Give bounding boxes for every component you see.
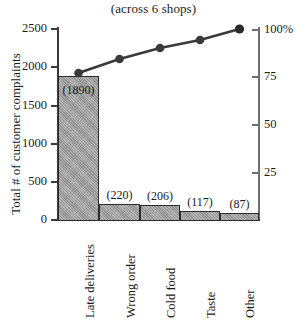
cumulative-point-5 <box>235 24 244 33</box>
pareto-chart: (across 6 shops) Total # of customer com… <box>0 0 307 326</box>
cumulative-point-2 <box>115 55 124 64</box>
cumulative-point-1 <box>74 69 83 78</box>
x-ticklabel-late-deliveries: Late deliveries <box>84 244 97 318</box>
cumulative-point-4 <box>196 36 205 45</box>
x-ticklabel-wrong-order: Wrong order <box>125 254 138 318</box>
x-ticklabel-cold-food: Cold food <box>165 268 178 318</box>
cumulative-percent-line <box>0 0 307 326</box>
x-ticklabel-other: Other <box>244 290 257 318</box>
x-ticklabel-taste: Taste <box>205 292 218 318</box>
cumulative-point-3 <box>156 44 165 53</box>
